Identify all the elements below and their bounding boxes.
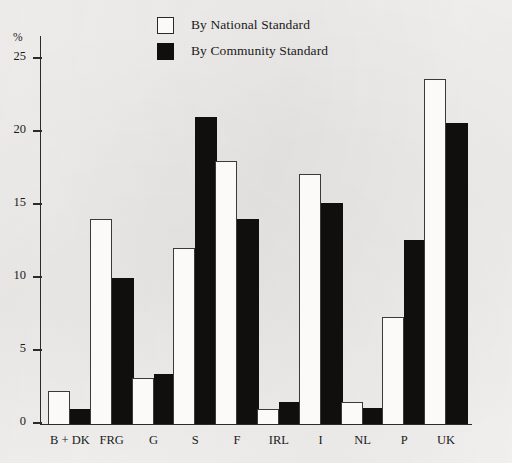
bar-national-standard[interactable]: [132, 378, 154, 423]
plot-area: 0510152025 B + DKFRGGSFIRLINLPUK: [40, 36, 472, 425]
bar-community-standard[interactable]: [195, 117, 217, 424]
bar-national-standard[interactable]: [424, 79, 446, 424]
x-axis-tick-label: S: [173, 433, 217, 448]
y-axis-tick-label: 5: [20, 341, 26, 356]
white-square-outline-icon: [157, 17, 174, 34]
bar-group: P: [382, 37, 426, 424]
bar-chart-figure: By National Standard By Community Standa…: [0, 0, 512, 463]
bar-community-standard[interactable]: [404, 240, 426, 424]
bar-national-standard[interactable]: [215, 161, 237, 424]
bar-groups: B + DKFRGGSFIRLINLPUK: [40, 37, 472, 424]
y-axis-tick-label: 0: [20, 414, 26, 429]
x-axis-line: [40, 424, 472, 425]
x-axis-tick-label: NL: [341, 433, 385, 448]
x-axis-tick-label: P: [382, 433, 426, 448]
x-axis-tick-label: FRG: [90, 433, 134, 448]
y-axis-tick-label: 10: [14, 268, 27, 283]
x-axis-tick-label: I: [299, 433, 343, 448]
bar-national-standard[interactable]: [257, 409, 279, 424]
x-axis-tick-label: G: [132, 433, 176, 448]
bar-group: UK: [424, 37, 468, 424]
bar-national-standard[interactable]: [90, 219, 112, 423]
bar-community-standard[interactable]: [446, 123, 468, 424]
x-axis-tick-label: B + DK: [48, 433, 92, 448]
bar-community-standard[interactable]: [321, 203, 343, 424]
bar-group: I: [299, 37, 343, 424]
bar-community-standard[interactable]: [70, 409, 92, 424]
bar-national-standard[interactable]: [341, 402, 363, 424]
bar-group: B + DK: [48, 37, 92, 424]
bar-group: G: [132, 37, 176, 424]
x-axis-tick-label: UK: [424, 433, 468, 448]
legend-label-national: By National Standard: [191, 17, 310, 33]
bar-group: FRG: [90, 37, 134, 424]
y-axis-unit-label: %: [13, 31, 23, 43]
bar-group: IRL: [257, 37, 301, 424]
bar-national-standard[interactable]: [173, 248, 195, 423]
bar-community-standard[interactable]: [363, 408, 385, 424]
bar-community-standard[interactable]: [237, 219, 259, 423]
bar-group: NL: [341, 37, 385, 424]
bar-group: F: [215, 37, 259, 424]
bar-national-standard[interactable]: [299, 174, 321, 424]
bar-national-standard[interactable]: [382, 317, 404, 424]
y-axis-tick-label: 25: [14, 49, 27, 64]
y-axis-tick-label: 20: [14, 122, 27, 137]
legend-item-national: By National Standard: [157, 12, 328, 38]
bar-group: S: [173, 37, 217, 424]
x-axis-tick-label: F: [215, 433, 259, 448]
x-axis-tick-label: IRL: [257, 433, 301, 448]
bar-community-standard[interactable]: [112, 278, 134, 424]
bar-national-standard[interactable]: [48, 391, 70, 423]
bar-community-standard[interactable]: [279, 402, 301, 424]
y-axis-tick-label: 15: [14, 195, 27, 210]
bar-community-standard[interactable]: [154, 374, 176, 424]
